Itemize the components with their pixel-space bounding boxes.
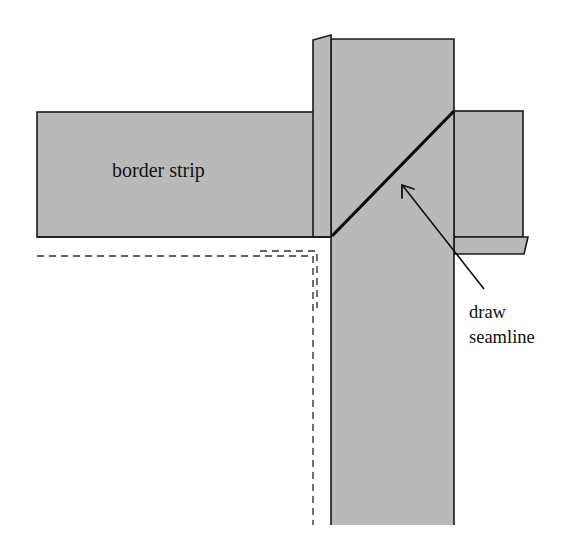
vertical-border-strip xyxy=(331,39,454,525)
horizontal-strip-extension xyxy=(454,111,523,237)
dashed-quilt-edge-inner xyxy=(260,251,317,308)
seam-allowance-flap-top xyxy=(313,35,331,237)
seam-allowance-flap-right xyxy=(454,237,528,254)
mitered-border-diagram: border strip draw seamline xyxy=(0,0,582,555)
dashed-quilt-edge-outer xyxy=(37,256,313,525)
callout-label-seamline: seamline xyxy=(469,327,535,347)
callout-label-draw: draw xyxy=(469,302,507,322)
border-strip-label: border strip xyxy=(112,159,205,182)
